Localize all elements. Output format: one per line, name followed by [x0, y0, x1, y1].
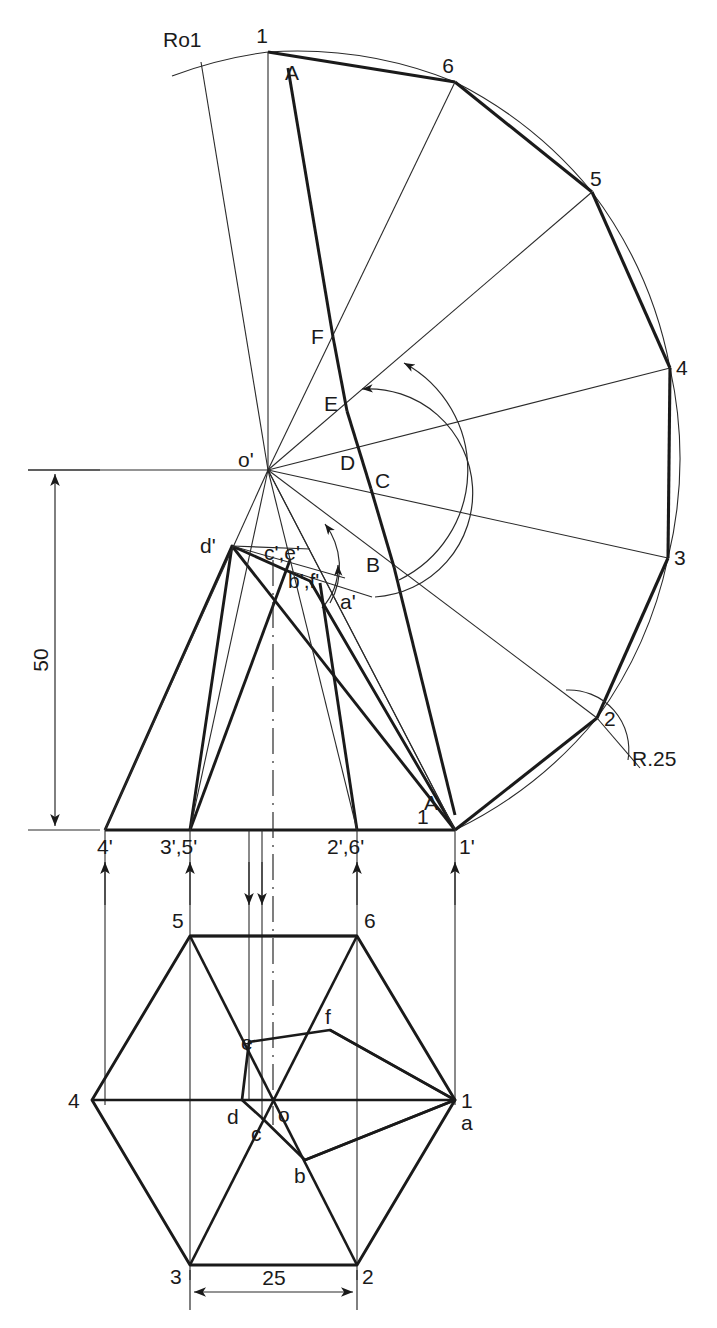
label-top-e: e	[241, 1031, 253, 1054]
label-base-4: 4'	[97, 835, 113, 858]
label-front-a: a'	[340, 590, 356, 613]
chord-4-3	[668, 368, 670, 558]
label-dim-50: 50	[29, 648, 52, 671]
technical-drawing-svg: Ro1 1 6 5 4 3 2 A F E D C B A o' d' c',e…	[0, 0, 717, 1328]
cut-E-D-C	[347, 411, 371, 489]
label-top-a: a	[461, 1111, 473, 1134]
label-top-c: c	[251, 1122, 262, 1145]
front-radial-o-4	[105, 470, 268, 830]
true-length-leader	[201, 62, 268, 470]
label-top-d: d	[227, 1105, 239, 1128]
drawing-canvas: Ro1 1 6 5 4 3 2 A F E D C B A o' d' c',e…	[0, 0, 717, 1328]
front-view-outline	[105, 546, 455, 830]
label-hex-6: 6	[364, 909, 376, 932]
ro1-leader-line	[201, 62, 268, 470]
label-cut-F: F	[311, 325, 324, 348]
ray-1-b	[305, 1100, 455, 1160]
label-base-1: 1'	[459, 835, 475, 858]
label-top-o: o	[278, 1103, 290, 1126]
front-radial-o-1	[268, 470, 455, 830]
radial-o-3	[268, 470, 668, 558]
top-view-section-polygon	[242, 1030, 455, 1160]
rotation-arc-inner	[325, 524, 339, 603]
front-apex-to-1	[232, 546, 455, 830]
chord-5-4	[592, 192, 670, 368]
label-dev-pt-4: 4	[676, 356, 688, 379]
label-base-35: 3',5'	[160, 835, 197, 858]
label-front-d: d'	[200, 534, 216, 557]
label-front-bf: b',f'	[288, 569, 319, 592]
label-cut-C: C	[375, 469, 390, 492]
label-cut-D: D	[340, 451, 355, 474]
label-hex-5: 5	[172, 909, 184, 932]
label-cut-E: E	[324, 392, 338, 415]
label-dev-pt-5: 5	[590, 167, 602, 190]
section-outline-abcdef	[242, 1030, 455, 1160]
chord-6-5	[455, 82, 592, 192]
label-r25: R.25	[632, 747, 676, 770]
chord-3-2	[597, 558, 668, 718]
label-dev-pt-3: 3	[674, 546, 686, 569]
label-dev-pt-6: 6	[442, 54, 454, 77]
label-hex-4: 4	[68, 1089, 80, 1112]
r25-arc-tick	[566, 690, 629, 760]
label-cut-B: B	[366, 553, 380, 576]
label-dim-25: 25	[262, 1266, 285, 1289]
label-hex-1: 1	[461, 1089, 473, 1112]
chord-2-1	[455, 718, 597, 830]
label-ro1: Ro1	[163, 28, 202, 51]
label-front-edge-1: 1	[417, 805, 429, 828]
label-front-ce: c',e'	[264, 541, 300, 564]
label-base-26: 2',6'	[327, 835, 364, 858]
label-front-apex-o: o'	[238, 448, 254, 471]
rotation-arc-short	[322, 565, 338, 608]
radial-o-4	[268, 368, 670, 470]
label-hex-2: 2	[362, 1265, 374, 1288]
label-hex-3: 3	[170, 1265, 182, 1288]
ray-1-f	[330, 1030, 455, 1100]
label-dev-pt-2: 2	[604, 707, 616, 730]
front-radial-o-2	[268, 470, 357, 830]
development-cut-polyline	[288, 68, 455, 815]
cut-A-F	[288, 68, 333, 337]
label-top-f: f	[325, 1005, 331, 1028]
label-top-b: b	[294, 1164, 306, 1187]
label-cut-A-top: A	[285, 61, 299, 84]
label-dev-pt-1: 1	[256, 24, 268, 47]
front-edge-2-6	[320, 583, 357, 830]
radial-o-6	[268, 82, 455, 470]
projection-arrows	[105, 862, 455, 905]
front-view-thin	[28, 470, 455, 830]
